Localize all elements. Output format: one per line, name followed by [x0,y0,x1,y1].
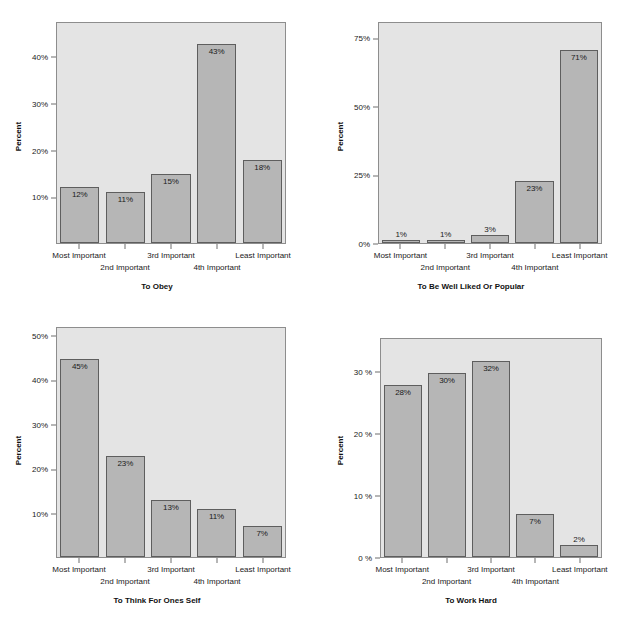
x-tick-mark [79,244,80,249]
bar-value-label: 23% [107,459,144,468]
x-tick-label: 2nd Important [422,577,471,586]
bar-series: 28%30%32%7%2% [381,339,601,557]
bar-value-label: 15% [152,177,189,186]
plot-area: 28%30%32%7%2% [380,338,602,558]
x-tick-label: Most Important [52,251,105,260]
y-tick-label: 0 % [358,554,380,563]
bar: 7% [243,526,282,557]
bar-cell: 1% [423,23,467,243]
x-tick-label: 3rd Important [147,251,195,260]
x-tick-label: 3rd Important [467,565,515,574]
x-tick-label: 4th Important [193,577,240,586]
x-tick-label: 2nd Important [421,263,470,272]
bar-value-label: 71% [561,53,597,62]
bar: 1% [382,240,420,243]
bar-cell: 11% [194,328,240,557]
bar-cell: 3% [468,23,512,243]
bar-cell: 11% [103,23,149,243]
y-axis-ticks: 0%25%50%75% [332,22,378,244]
x-tick-mark [125,558,126,563]
x-tick-mark [263,244,264,249]
y-axis-ticks: 10%20%30%40% [10,22,56,244]
bar: 11% [106,192,145,243]
x-tick-label: Most Important [376,565,429,574]
bar: 18% [243,160,282,243]
bar-value-label: 28% [385,388,421,397]
x-axis-ticks [380,558,602,563]
x-tick-label: 4th Important [512,577,559,586]
y-tick-label: 25% [354,171,378,180]
bar-cell: 7% [239,328,285,557]
y-tick-label: 20% [32,146,56,155]
bar-value-label: 12% [61,190,98,199]
figure-canvas: Percent 10%20%30%40% 12%11%15%43%18% Mos… [0,0,628,632]
y-tick-label: 30% [32,99,56,108]
bar-series: 1%1%3%23%71% [379,23,601,243]
bar-value-label: 1% [428,230,464,239]
y-tick-label: 20 % [354,430,380,439]
x-tick-mark [445,244,446,249]
x-tick-label: 4th Important [511,263,558,272]
chart-panel-to-work-hard: Percent 0 %10 %20 %30 % 28%30%32%7%2% Mo… [314,318,628,628]
bar-series: 45%23%13%11%7% [57,328,285,557]
bar-cell: 7% [513,339,557,557]
x-tick-label: 2nd Important [100,263,149,272]
plot-area: 12%11%15%43%18% [56,22,286,244]
chart-title: To Think For Ones Self [0,596,314,605]
bar: 2% [560,545,598,557]
x-tick-mark [217,244,218,249]
y-tick-label: 10% [32,509,56,518]
bar-value-label: 32% [473,364,509,373]
bar: 32% [472,361,510,558]
x-tick-label: 2nd Important [100,577,149,586]
bar-value-label: 7% [517,517,553,526]
x-tick-label: Most Important [374,251,427,260]
x-tick-label: Least Important [552,251,608,260]
x-tick-mark [125,244,126,249]
y-tick-label: 75% [354,34,378,43]
bar-cell: 30% [425,339,469,557]
x-axis-ticks [378,244,602,249]
bar-value-label: 1% [383,230,419,239]
bar-value-label: 18% [244,163,281,172]
bar: 15% [151,174,190,243]
chart-title: To Be Well Liked Or Popular [314,282,628,291]
bar-cell: 15% [148,23,194,243]
bar: 7% [516,514,554,557]
bar-cell: 23% [103,328,149,557]
bar-value-label: 23% [516,184,552,193]
chart-panel-to-think-for-ones-self: Percent 10%20%30%40%50% 45%23%13%11%7% M… [0,318,314,628]
x-tick-label: Least Important [552,565,608,574]
chart-title: To Work Hard [314,596,628,605]
y-tick-label: 40% [32,53,56,62]
bar-value-label: 45% [61,362,98,371]
bar-value-label: 30% [429,376,465,385]
bar-series: 12%11%15%43%18% [57,23,285,243]
y-tick-label: 0% [358,240,378,249]
x-tick-mark [579,558,580,563]
bar-cell: 13% [148,328,194,557]
x-tick-mark [402,558,403,563]
y-axis-ticks: 0 %10 %20 %30 % [332,338,380,558]
bar-value-label: 11% [107,195,144,204]
bar: 11% [197,509,236,557]
bar-cell: 18% [239,23,285,243]
bar-value-label: 11% [198,512,235,521]
bar: 23% [515,181,553,243]
chart-panel-to-be-well-liked-or-popular: Percent 0%25%50%75% 1%1%3%23%71% Most Im… [314,4,628,304]
x-tick-label: 4th Important [193,263,240,272]
bar: 43% [197,44,236,243]
bar-cell: 28% [381,339,425,557]
bar: 1% [427,240,465,243]
x-axis-labels: Most Important2nd Important3rd Important… [56,565,286,591]
x-tick-mark [171,244,172,249]
bar-cell: 71% [557,23,601,243]
y-tick-label: 10% [32,193,56,202]
x-tick-mark [446,558,447,563]
y-tick-label: 30 % [354,368,380,377]
x-tick-mark [217,558,218,563]
x-axis-labels: Most Important2nd Important3rd Important… [56,251,286,277]
x-tick-mark [535,558,536,563]
bar: 28% [384,385,422,557]
bar-cell: 23% [512,23,556,243]
